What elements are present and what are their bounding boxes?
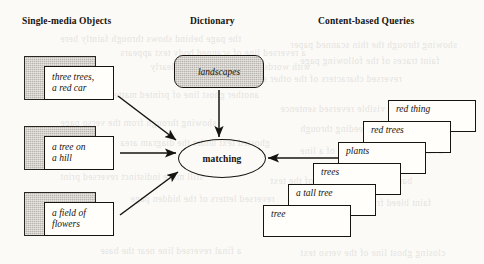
query-card-label: plants [346,146,369,156]
arrow-object-1-to-matching [118,96,176,140]
figure-canvas: the page behind shows through faintly he… [0,0,484,264]
dictionary-label: landscapes [198,67,240,77]
query-card-label: red trees [371,125,404,135]
query-card-label: trees [321,167,339,177]
query-card-label: red thing [396,104,430,114]
query-card-label: tree [271,209,285,219]
query-card: tree [263,205,351,237]
query-card-label: a tall tree [296,188,333,198]
arrow-object-3-to-matching [120,172,178,215]
